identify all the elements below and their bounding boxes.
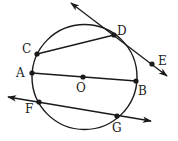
label-D: D [117,24,127,38]
point-A [29,70,34,75]
point-C [34,51,39,56]
point-G [114,113,119,118]
label-E: E [158,54,167,68]
label-F: F [25,102,33,116]
label-O: O [76,81,86,95]
circle-geometry-diagram: C D A O B E F G [0,0,178,141]
point-B [133,78,138,83]
point-E [149,61,154,66]
label-A: A [15,66,25,80]
points [29,32,154,118]
point-F [36,99,41,104]
label-B: B [138,84,147,98]
label-C: C [22,42,31,56]
label-G: G [112,121,122,135]
point-O [80,74,85,79]
point-D [111,32,116,37]
